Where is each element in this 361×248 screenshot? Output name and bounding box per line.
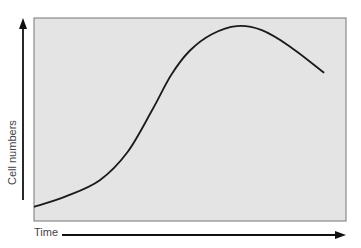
growth-chart xyxy=(0,0,361,248)
y-arrowhead-icon xyxy=(19,18,27,29)
x-arrowhead-icon xyxy=(335,231,346,239)
x-axis-label: Time xyxy=(34,226,58,238)
y-axis-label: Cell numbers xyxy=(6,65,18,185)
